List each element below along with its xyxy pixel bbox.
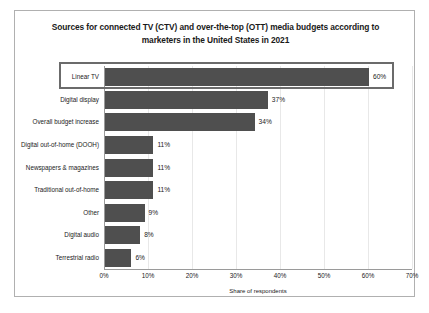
bar-value-label: 60% [369, 68, 386, 86]
x-axis-title: Share of respondents [104, 288, 412, 294]
category-label-column: Linear TVDigital displayOverall budget i… [0, 66, 104, 269]
bar[interactable] [105, 68, 369, 86]
bar-row[interactable]: 8% [104, 226, 412, 244]
bar-row[interactable]: 11% [104, 136, 412, 154]
bar[interactable] [105, 113, 255, 131]
bar[interactable] [105, 91, 268, 109]
bar-row[interactable]: 11% [104, 159, 412, 177]
bar-value-label: 6% [131, 249, 145, 267]
bar-row[interactable]: 37% [104, 91, 412, 109]
bar-row[interactable]: 34% [104, 113, 412, 131]
category-label: Digital audio [0, 226, 104, 244]
bar-value-label: 34% [255, 113, 272, 131]
category-label: Terrestrial radio [0, 249, 104, 267]
bar-row[interactable]: 9% [104, 204, 412, 222]
x-axis-line [104, 269, 412, 270]
category-label: Newspapers & magazines [0, 159, 104, 177]
x-axis-tick-label: 70% [406, 272, 419, 279]
bar-value-label: 37% [268, 91, 285, 109]
x-axis-tick-label: 20% [186, 272, 199, 279]
bar-value-label: 8% [140, 226, 154, 244]
category-label: Digital display [0, 91, 104, 109]
plot-area: Linear TVDigital displayOverall budget i… [104, 66, 412, 269]
category-label: Digital out-of-home (DOOH) [0, 136, 104, 154]
bar-value-label: 11% [153, 181, 170, 199]
x-axis-tick-label: 10% [142, 272, 155, 279]
x-axis-tick-label: 40% [274, 272, 287, 279]
bar[interactable] [105, 159, 153, 177]
chart-title: Sources for connected TV (CTV) and over-… [25, 21, 406, 47]
bar-value-label: 11% [153, 159, 170, 177]
bar-row[interactable]: 60% [104, 68, 412, 86]
x-axis-tick-label: 50% [318, 272, 331, 279]
chart-frame: Sources for connected TV (CTV) and over-… [14, 10, 415, 297]
gridline [412, 66, 413, 269]
category-label: Overall budget increase [0, 113, 104, 131]
bar[interactable] [105, 181, 153, 199]
x-axis-tick-label: 0% [99, 272, 108, 279]
bar[interactable] [105, 204, 145, 222]
bar-row[interactable]: 6% [104, 249, 412, 267]
bar-value-label: 11% [153, 136, 170, 154]
bar-row[interactable]: 11% [104, 181, 412, 199]
chart-title-line-2: marketers in the United States in 2021 [25, 34, 406, 47]
category-label: Other [0, 204, 104, 222]
chart-title-line-1: Sources for connected TV (CTV) and over-… [25, 21, 406, 34]
category-label: Traditional out-of-home [0, 181, 104, 199]
bar[interactable] [105, 226, 140, 244]
x-axis-tick-label: 60% [362, 272, 375, 279]
bar[interactable] [105, 249, 131, 267]
category-label: Linear TV [0, 68, 104, 86]
bar[interactable] [105, 136, 153, 154]
bar-value-label: 9% [145, 204, 159, 222]
x-axis-tick-label: 30% [230, 272, 243, 279]
